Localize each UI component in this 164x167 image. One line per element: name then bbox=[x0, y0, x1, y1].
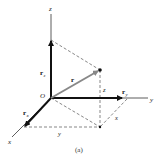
rz-vector-label: r z bbox=[40, 69, 46, 78]
x-axis-label: x bbox=[7, 138, 12, 146]
rz-label-subscript: z bbox=[43, 73, 46, 78]
rx-vector-label: r x bbox=[23, 109, 30, 118]
rx-label-subscript: x bbox=[26, 113, 30, 118]
rx-vector-arrow bbox=[25, 98, 51, 126]
r-vector-label: r bbox=[71, 76, 74, 84]
z-dimension-label: z bbox=[102, 86, 106, 93]
y-dimension-label: y bbox=[57, 130, 61, 137]
r-vector-arrow bbox=[51, 71, 98, 98]
tip-point bbox=[98, 68, 102, 72]
dashed-origin-to-projection bbox=[51, 98, 100, 127]
y-axis-label: y bbox=[149, 96, 154, 104]
ry-vector-label: r y bbox=[122, 88, 129, 97]
dashed-rz-to-point bbox=[51, 40, 100, 70]
ry-label-subscript: y bbox=[125, 92, 129, 97]
figure-caption: (a) bbox=[75, 146, 83, 154]
origin-label: O bbox=[40, 92, 45, 100]
dashed-ry-to-projection bbox=[100, 99, 127, 127]
z-axis-label: z bbox=[48, 5, 52, 13]
projection-point bbox=[99, 126, 101, 128]
vector-diagram: z y x O r r z r y r x z x y (a) bbox=[0, 0, 164, 167]
x-dimension-label: x bbox=[114, 114, 118, 121]
